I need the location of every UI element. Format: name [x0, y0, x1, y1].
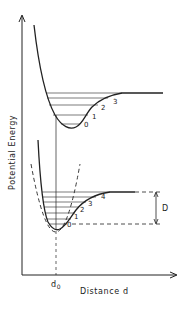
lower-potential-curve	[38, 140, 135, 230]
dissociation-energy-label: D	[162, 204, 169, 213]
upper-level-3: 3	[113, 98, 117, 106]
x-axis-label: Distance d	[80, 287, 129, 296]
lower-level-0: 0	[67, 221, 71, 229]
harmonic-approximation-parabola	[31, 164, 80, 232]
upper-level-labels: 0 1 2 3	[84, 98, 117, 129]
upper-level-0: 0	[84, 121, 88, 129]
upper-potential-curve	[34, 25, 163, 128]
lower-level-2: 2	[80, 206, 84, 214]
lower-level-4: 4	[101, 193, 106, 201]
upper-level-2: 2	[101, 104, 105, 112]
upper-level-1: 1	[92, 113, 96, 121]
potential-energy-diagram: 0 1 2 3 0 1 2 3 4 D d0 Distance d Pote	[0, 0, 184, 309]
lower-level-1: 1	[74, 213, 78, 221]
lower-curve	[31, 140, 160, 275]
axes	[19, 15, 177, 278]
upper-curve	[34, 25, 163, 229]
equilibrium-distance-label: d0	[51, 280, 61, 290]
lower-level-3: 3	[88, 200, 92, 208]
y-axis-label: Potential Energy	[8, 115, 17, 190]
